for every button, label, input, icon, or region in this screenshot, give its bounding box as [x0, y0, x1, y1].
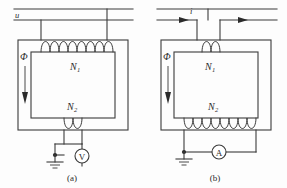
- panel-b-primary-winding: [202, 42, 220, 53]
- panel-b-flux-label: Φ: [163, 51, 171, 62]
- transformer-figure: u N 1 N 2 Φ: [0, 0, 287, 188]
- panel-a-core-outer: [18, 40, 128, 130]
- panel-a-secondary-coil-path: [64, 118, 82, 129]
- panel-b-secondary-coil-path: [184, 118, 256, 129]
- panel-b-ammeter-symbol: A: [216, 148, 223, 158]
- panel-b-caption: (b): [210, 173, 221, 183]
- panel-a-secondary-subscript: 2: [74, 106, 78, 113]
- panel-a-caption: (a): [67, 173, 77, 183]
- panel-a-flux-arrowhead: [22, 92, 28, 104]
- panel-a-supply-rails: [14, 9, 133, 40]
- panel-a-primary-subscript: 1: [77, 66, 80, 73]
- panel-b-secondary-subscript: 2: [215, 106, 219, 113]
- panel-a: u N 1 N 2 Φ: [14, 9, 133, 183]
- panel-b-primary-coil-path: [202, 42, 220, 53]
- panel-a-primary-winding: [41, 42, 113, 53]
- panel-b-core-outer: [161, 40, 271, 130]
- panel-b-primary-subscript: 1: [212, 66, 215, 73]
- panel-b-ammeter: A: [212, 145, 226, 159]
- panel-b-supply-rails: [157, 9, 277, 40]
- panel-b-secondary-winding: [184, 118, 256, 129]
- panel-a-primary-coil-path: [41, 42, 113, 53]
- panel-b-current-arrow-right: [238, 17, 248, 23]
- panel-a-voltmeter-symbol: V: [79, 152, 86, 162]
- panel-a-voltmeter: V: [75, 149, 89, 163]
- panel-b-current-arrow-left: [179, 17, 189, 23]
- panel-a-source-label: u: [15, 10, 19, 20]
- panel-a-flux-label: Φ: [20, 51, 28, 62]
- panel-a-flux-indicator: [22, 66, 28, 104]
- panel-b-flux-arrowhead: [165, 92, 171, 104]
- panel-a-secondary-winding: [64, 118, 82, 129]
- panel-b-ground-symbol: [176, 152, 192, 165]
- panel-b-flux-indicator: [165, 66, 171, 104]
- diagram-canvas: u N 1 N 2 Φ: [0, 0, 287, 188]
- panel-a-ground-symbol: [47, 155, 63, 168]
- panel-b: i N 1 N 2 Φ: [157, 6, 277, 183]
- panel-b-source-label: i: [190, 6, 193, 16]
